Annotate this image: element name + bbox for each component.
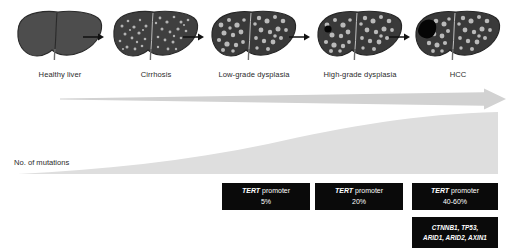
mutation-frequency-1: 5% <box>261 197 271 208</box>
disease-progression-arrow <box>60 88 506 110</box>
gene-suffix-3: promoter <box>449 187 479 194</box>
step-arrow-low-grade-to-high-grade <box>288 31 312 43</box>
mutation-box-tert-cirrhosis: TERT promoter 5% <box>222 183 310 210</box>
step-arrow-healthy-to-cirrhosis <box>82 31 106 43</box>
gene-name-tert-1: TERT <box>242 187 260 194</box>
driver-genes-line-1: CTNNB1, TP53, <box>432 223 479 233</box>
stage-label-hcc: HCC <box>398 70 510 79</box>
gene-name-tert-2: TERT <box>335 187 353 194</box>
mutation-box-tert-low-grade: TERT promoter 20% <box>315 183 403 210</box>
gene-name-tert-3: TERT <box>431 187 449 194</box>
mutation-frequency-2: 20% <box>352 197 366 208</box>
mutation-burden-wedge <box>18 112 498 176</box>
mutations-axis-label: No. of mutations <box>14 158 69 167</box>
step-arrow-high-grade-to-hcc <box>388 31 412 43</box>
small-tumor-nodule <box>324 25 331 32</box>
step-arrow-cirrhosis-to-low-grade <box>182 31 206 43</box>
driver-genes-line-2: ARID1, ARID2, AXIN1 <box>423 233 487 243</box>
mutation-box-hcc-driver-genes: CTNNB1, TP53, ARID1, ARID2, AXIN1 <box>412 217 498 248</box>
liver-illustration-hcc <box>410 4 506 68</box>
mutation-frequency-3: 40-60% <box>443 197 467 208</box>
gene-suffix-1: promoter <box>260 187 290 194</box>
mutation-box-tert-hcc: TERT promoter 40-60% <box>412 183 498 210</box>
hcc-liver-icon <box>410 4 506 68</box>
gene-suffix-2: promoter <box>353 187 383 194</box>
stage-label-low-grade-dysplasia: Low-grade dysplasia <box>194 70 314 79</box>
